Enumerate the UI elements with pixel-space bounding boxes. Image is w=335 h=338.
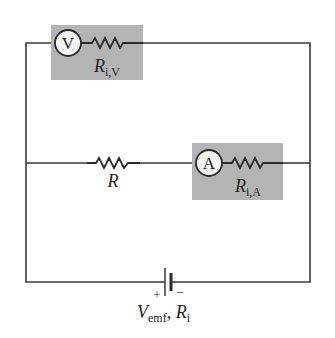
battery-plus-sign: + bbox=[153, 287, 160, 302]
load-resistor: R bbox=[87, 158, 140, 191]
battery-minus-sign: − bbox=[176, 285, 183, 300]
battery: + − Vemf, Ri bbox=[137, 268, 191, 325]
battery-label: Vemf, Ri bbox=[137, 302, 191, 325]
resistor-icon bbox=[87, 158, 140, 168]
ammeter-symbol: A bbox=[203, 154, 216, 173]
voltmeter-symbol: V bbox=[62, 34, 75, 53]
ammeter-assembly: A Ri,A bbox=[192, 143, 283, 200]
voltmeter-assembly: V Ri,V bbox=[51, 25, 143, 80]
load-resistor-label: R bbox=[107, 171, 119, 191]
circuit-diagram: V Ri,V R A Ri,A + − Vemf, Ri bbox=[0, 0, 335, 338]
